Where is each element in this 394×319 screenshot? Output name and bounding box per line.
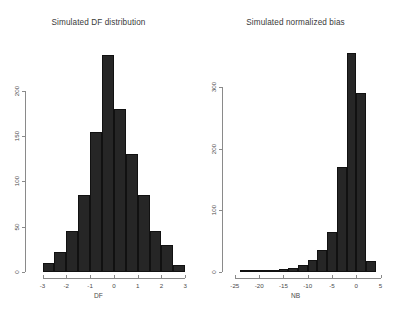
y-axis-tick bbox=[219, 210, 222, 211]
x-axis-tick-label: -2 bbox=[64, 282, 70, 289]
df-panel: Simulated DF distribution -3-2-101230501… bbox=[0, 0, 197, 319]
histogram-bar bbox=[317, 250, 327, 272]
x-axis-tick bbox=[114, 275, 115, 278]
histogram-bar bbox=[78, 195, 90, 272]
x-axis-tick-label: 0 bbox=[355, 282, 358, 289]
x-axis-tick bbox=[66, 275, 67, 278]
histogram-bar bbox=[337, 167, 347, 272]
x-axis-tick-label: -5 bbox=[329, 282, 335, 289]
y-axis-tick-label: 50 bbox=[13, 223, 20, 230]
x-axis-tick-label: 3 bbox=[184, 282, 187, 289]
histogram-bar bbox=[240, 270, 250, 272]
x-axis-tick-label: 2 bbox=[160, 282, 163, 289]
nb-panel-title: Simulated normalized bias bbox=[197, 18, 394, 27]
x-axis-tick bbox=[138, 275, 139, 278]
histogram-bar bbox=[288, 268, 298, 272]
y-axis-line bbox=[222, 87, 223, 272]
x-axis-tick-label: -25 bbox=[230, 282, 239, 289]
y-axis-tick bbox=[219, 149, 222, 150]
x-axis-tick bbox=[259, 275, 260, 278]
y-axis-tick-label: 150 bbox=[13, 131, 20, 141]
x-axis-tick-label: 5 bbox=[379, 282, 382, 289]
histogram-bar bbox=[249, 270, 259, 272]
x-axis-tick bbox=[332, 275, 333, 278]
histogram-bar bbox=[126, 154, 138, 272]
histogram-bar bbox=[298, 265, 308, 272]
histogram-bar bbox=[269, 270, 279, 272]
histogram-bar bbox=[102, 55, 114, 272]
x-axis-tick-label: -10 bbox=[303, 282, 312, 289]
y-axis-tick-label: 0 bbox=[13, 270, 20, 273]
x-axis-tick-label: -1 bbox=[87, 282, 93, 289]
y-axis-tick bbox=[22, 136, 25, 137]
y-axis-tick bbox=[22, 181, 25, 182]
y-axis-tick bbox=[219, 272, 222, 273]
histogram-bar bbox=[356, 93, 366, 272]
histogram-bar bbox=[54, 252, 66, 272]
x-axis-tick bbox=[43, 275, 44, 278]
x-axis-line bbox=[235, 278, 381, 279]
x-axis-tick-label: -15 bbox=[279, 282, 288, 289]
histogram-bar bbox=[150, 231, 162, 272]
x-axis-tick bbox=[356, 275, 357, 278]
y-axis-tick-label: 100 bbox=[13, 176, 20, 186]
histogram-bar bbox=[173, 265, 185, 272]
x-axis-tick-label: -3 bbox=[40, 282, 46, 289]
y-axis-tick-label: 200 bbox=[13, 86, 20, 96]
x-axis-tick bbox=[235, 275, 236, 278]
histogram-bar bbox=[327, 232, 337, 272]
figure-container: Simulated DF distribution -3-2-101230501… bbox=[0, 0, 394, 319]
histogram-bar bbox=[347, 53, 357, 272]
x-axis-tick bbox=[90, 275, 91, 278]
x-axis-tick bbox=[185, 275, 186, 278]
y-axis-tick bbox=[22, 272, 25, 273]
histogram-bar bbox=[43, 263, 55, 272]
y-axis-tick-label: 0 bbox=[210, 270, 217, 273]
histogram-bar bbox=[114, 109, 126, 272]
y-axis-tick-label: 300 bbox=[210, 82, 217, 92]
x-axis-line bbox=[43, 278, 186, 279]
histogram-bar bbox=[138, 195, 150, 272]
df-plot-area: -3-2-10123050100150200 bbox=[33, 50, 190, 272]
x-axis-tick-label: 0 bbox=[112, 282, 115, 289]
y-axis-tick-label: 200 bbox=[210, 143, 217, 153]
x-axis-tick-label: 1 bbox=[136, 282, 139, 289]
nb-plot-area: -25-20-15-10-5050100200300 bbox=[230, 50, 383, 272]
histogram-bar bbox=[259, 270, 269, 272]
y-axis-tick bbox=[22, 227, 25, 228]
y-axis-tick bbox=[219, 87, 222, 88]
histogram-bar bbox=[279, 269, 289, 272]
y-axis-tick bbox=[22, 91, 25, 92]
x-axis-tick bbox=[161, 275, 162, 278]
nb-xaxis-title: NB bbox=[197, 292, 394, 299]
y-axis-line bbox=[25, 91, 26, 272]
df-xaxis-title: DF bbox=[0, 292, 197, 299]
histogram-bar bbox=[66, 231, 78, 272]
y-axis-tick-label: 100 bbox=[210, 205, 217, 215]
x-axis-tick bbox=[381, 275, 382, 278]
histogram-bar bbox=[90, 132, 102, 272]
df-panel-title: Simulated DF distribution bbox=[0, 18, 197, 27]
histogram-bar bbox=[308, 260, 318, 272]
x-axis-tick bbox=[283, 275, 284, 278]
x-axis-tick bbox=[308, 275, 309, 278]
histogram-bar bbox=[366, 261, 376, 272]
histogram-bar bbox=[161, 245, 173, 272]
x-axis-tick-label: -20 bbox=[255, 282, 264, 289]
nb-panel: Simulated normalized bias -25-20-15-10-5… bbox=[197, 0, 394, 319]
